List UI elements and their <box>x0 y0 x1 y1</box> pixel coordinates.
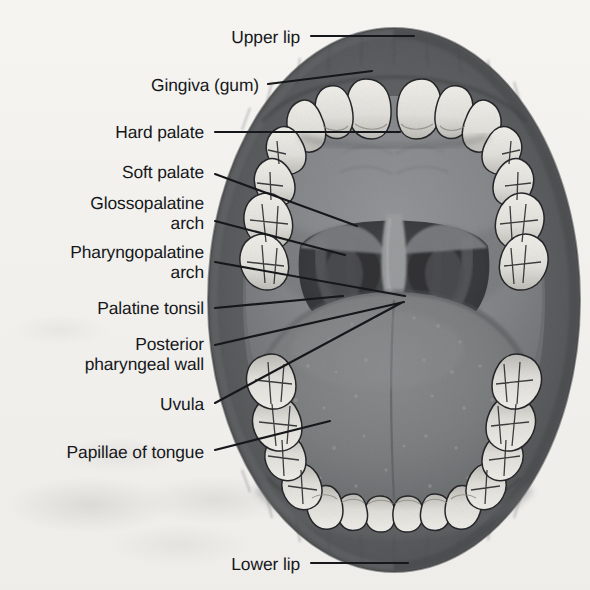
label-posterior-pharyngeal-wall: Posterior pharyngeal wall <box>85 334 204 374</box>
oral-cavity-illustration <box>0 0 590 590</box>
label-uvula: Uvula <box>160 394 204 415</box>
label-pharyngopalatine-arch: Pharyngopalatine arch <box>70 242 204 282</box>
figure-canvas: Upper lipGingiva (gum)Hard palateSoft pa… <box>0 0 590 590</box>
label-gingiva-gum: Gingiva (gum) <box>151 75 259 96</box>
label-lower-lip: Lower lip <box>231 554 300 575</box>
label-palatine-tonsil: Palatine tonsil <box>97 298 204 319</box>
label-papillae-of-tongue: Papillae of tongue <box>67 442 204 463</box>
label-upper-lip: Upper lip <box>231 27 300 48</box>
label-glossopalatine-arch: Glossopalatine arch <box>90 193 204 233</box>
label-soft-palate: Soft palate <box>122 162 204 183</box>
mouth-artwork <box>208 28 580 572</box>
label-hard-palate: Hard palate <box>115 122 204 143</box>
